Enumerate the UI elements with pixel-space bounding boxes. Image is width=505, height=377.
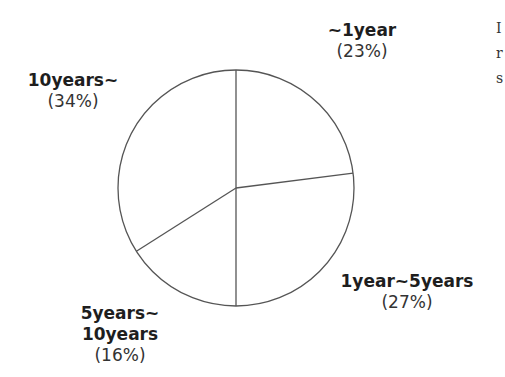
label-percent: (34%) (18, 91, 128, 112)
label-percent: (16%) (72, 345, 168, 366)
label-1-to-5-years: 1year~5years (27%) (330, 271, 484, 313)
side-text-line: I (496, 20, 502, 36)
label-name-line1: 5years~ (72, 303, 168, 324)
label-5-to-10-years: 5years~ 10years (16%) (72, 303, 168, 366)
side-text-line: s (496, 70, 503, 86)
label-under-1-year: ~1year (23%) (318, 20, 406, 62)
label-name: ~1year (318, 20, 406, 41)
label-over-10-years: 10years~ (34%) (18, 70, 128, 112)
label-name: 10years~ (18, 70, 128, 91)
label-name-line2: 10years (72, 324, 168, 345)
label-name: 1year~5years (330, 271, 484, 292)
label-percent: (27%) (330, 292, 484, 313)
cropped-side-text: I r s (496, 16, 503, 91)
label-percent: (23%) (318, 41, 406, 62)
pie-chart: ~1year (23%) 1year~5years (27%) 5years~ … (0, 0, 505, 377)
side-text-line: r (496, 45, 503, 61)
